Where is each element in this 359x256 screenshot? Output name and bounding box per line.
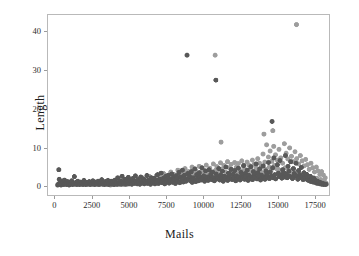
x-axis-label: Mails bbox=[0, 227, 359, 242]
y-tick-label: 0 bbox=[37, 181, 41, 191]
y-tick-mark bbox=[44, 186, 47, 187]
x-tick-mark bbox=[278, 196, 279, 199]
x-tick-label: 7500 bbox=[158, 200, 175, 210]
y-tick-label: 40 bbox=[33, 26, 42, 36]
scatter-points-canvas bbox=[48, 15, 329, 195]
x-tick-label: 12500 bbox=[230, 200, 251, 210]
x-tick-mark bbox=[203, 196, 204, 199]
x-tick-label: 17500 bbox=[304, 200, 325, 210]
x-tick-label: 2500 bbox=[83, 200, 100, 210]
x-tick-mark bbox=[54, 196, 55, 199]
x-tick-mark bbox=[92, 196, 93, 199]
x-tick-label: 15000 bbox=[267, 200, 288, 210]
x-tick-label: 0 bbox=[52, 200, 56, 210]
x-tick-label: 10000 bbox=[193, 200, 214, 210]
y-axis-label: Length bbox=[33, 53, 48, 173]
plot-area bbox=[47, 14, 330, 196]
x-tick-mark bbox=[166, 196, 167, 199]
scatter-chart-figure: 025005000750010000125001500017500 010203… bbox=[0, 0, 359, 256]
x-tick-mark bbox=[315, 196, 316, 199]
x-tick-mark bbox=[129, 196, 130, 199]
x-tick-mark bbox=[241, 196, 242, 199]
y-tick-mark bbox=[44, 31, 47, 32]
x-tick-label: 5000 bbox=[120, 200, 137, 210]
